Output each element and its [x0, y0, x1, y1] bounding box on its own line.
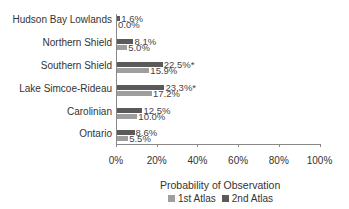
legend-label-1st-atlas: 1st Atlas [178, 193, 216, 204]
bar [117, 136, 128, 141]
category-label: Southern Shield [41, 60, 112, 71]
value-label: 5.5% [129, 134, 151, 143]
x-tick-label: 20% [147, 155, 167, 166]
x-tick [157, 144, 158, 147]
x-tick [279, 144, 280, 147]
bar [117, 68, 149, 73]
legend: 1st Atlas 2nd Atlas [168, 193, 273, 204]
category-label: Ontario [79, 128, 112, 139]
category-label: Northern Shield [43, 37, 112, 48]
value-label: 0.0% [118, 20, 140, 29]
bar [117, 45, 127, 50]
legend-swatch-1st-atlas [168, 195, 175, 202]
value-label: 17.2% [153, 89, 180, 98]
bar [117, 114, 137, 119]
legend-swatch-2nd-atlas [222, 195, 229, 202]
value-label: 5.0% [128, 43, 150, 52]
x-tick-label: 0% [109, 155, 123, 166]
x-tick [197, 144, 198, 147]
x-tick-label: 40% [187, 155, 207, 166]
x-axis [116, 144, 320, 145]
x-axis-label: Probability of Observation [160, 179, 280, 191]
category-label: Carolinian [67, 106, 112, 117]
x-tick [320, 144, 321, 147]
x-tick [116, 144, 117, 147]
x-tick-label: 80% [269, 155, 289, 166]
value-label: 15.9% [150, 66, 177, 75]
category-label: Hudson Bay Lowlands [12, 14, 112, 25]
legend-label-2nd-atlas: 2nd Atlas [232, 193, 273, 204]
x-tick-label: 60% [228, 155, 248, 166]
x-tick [238, 144, 239, 147]
x-tick-label: 100% [307, 155, 333, 166]
value-label: 10.0% [138, 112, 165, 121]
y-axis [116, 14, 117, 144]
bar [117, 91, 152, 96]
category-label: Lake Simcoe-Rideau [19, 83, 112, 94]
